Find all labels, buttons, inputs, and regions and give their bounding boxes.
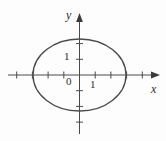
- figure-canvas: y x 0 1 1: [0, 0, 166, 141]
- origin-label: 0: [66, 76, 72, 87]
- x-axis-label: x: [151, 83, 156, 95]
- y-axis-label: y: [66, 9, 71, 21]
- y-axis-unit-label: 1: [64, 51, 70, 62]
- coordinate-plane-svg: [0, 0, 166, 141]
- x-axis-arrowhead: [151, 72, 160, 79]
- y-axis-arrowhead: [76, 13, 83, 22]
- x-axis-unit-label: 1: [90, 79, 96, 90]
